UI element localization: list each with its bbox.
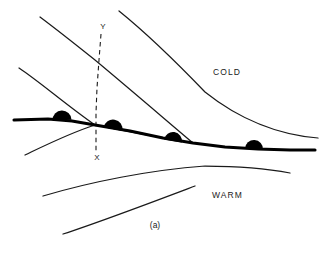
diagram-canvas: COLD WARM Y X (a) xyxy=(0,0,327,256)
cold-air-label: COLD xyxy=(213,67,241,77)
warm-air-label: WARM xyxy=(212,190,243,200)
lower-warm-boundary-curve-lower xyxy=(63,186,195,234)
lower-warm-boundary-curve-upper xyxy=(43,166,290,196)
thin-curve-group xyxy=(19,11,318,234)
occluded-front-group xyxy=(14,110,315,150)
front-semicircle-4 xyxy=(245,140,263,150)
figure-caption: (a) xyxy=(150,220,161,230)
left-lower-branch-curve xyxy=(25,125,95,155)
cross-section-point-y-label: Y xyxy=(100,22,106,31)
cross-section-xy-line xyxy=(96,34,101,152)
occluded-front-line xyxy=(14,119,315,150)
cross-section-point-x-label: X xyxy=(94,153,100,162)
front-semicircle-1 xyxy=(52,110,71,120)
front-semicircle-2 xyxy=(104,118,124,131)
front-semicircle-layer xyxy=(52,110,263,149)
weather-front-diagram: COLD WARM Y X (a) xyxy=(0,0,327,256)
